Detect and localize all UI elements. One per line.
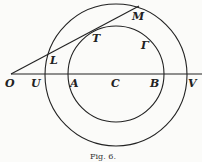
geometry-figure: O U A C B V L T M Γ Fig. 6. xyxy=(0,0,202,162)
label-gamma: Γ xyxy=(140,39,150,52)
label-c: C xyxy=(111,77,120,90)
label-t: T xyxy=(92,32,101,45)
label-v: V xyxy=(188,77,198,90)
label-a: A xyxy=(69,77,79,90)
label-u: U xyxy=(31,77,42,90)
label-o: O xyxy=(5,77,15,90)
label-l: L xyxy=(49,54,58,67)
label-m: M xyxy=(131,10,145,23)
secant-line-om xyxy=(11,6,139,74)
outer-circle xyxy=(45,4,187,146)
figure-caption: Fig. 6. xyxy=(90,152,116,161)
label-b: B xyxy=(149,77,159,90)
